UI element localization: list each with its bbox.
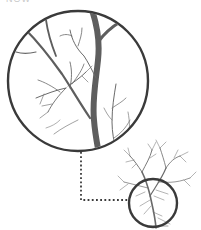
small-focus-circle [129, 179, 177, 227]
small-tree-icon [118, 140, 196, 228]
magnification-illustration [0, 0, 201, 230]
dotted-connector-line [81, 152, 129, 200]
magnifier-circle [8, 11, 148, 151]
